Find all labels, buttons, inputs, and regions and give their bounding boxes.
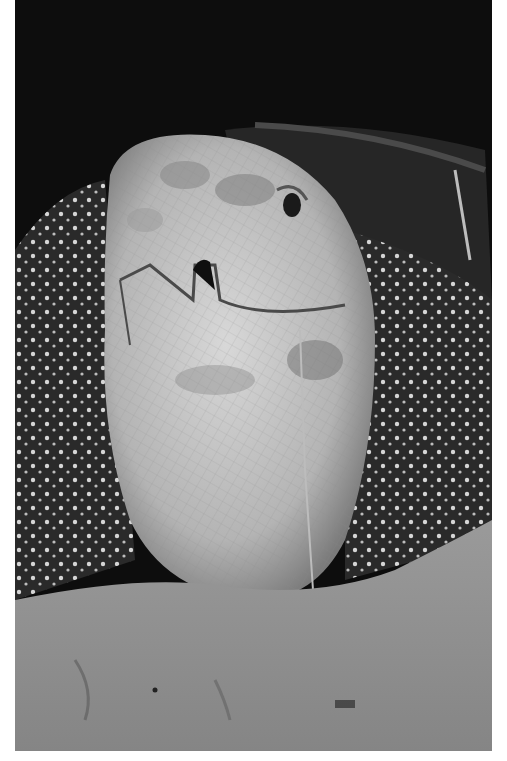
turtle-illustration bbox=[15, 0, 492, 751]
turtle-photo bbox=[15, 0, 492, 751]
turtle-eye bbox=[283, 193, 301, 217]
